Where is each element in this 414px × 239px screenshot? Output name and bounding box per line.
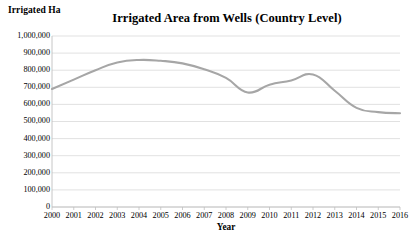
x-tick-label: 2002 [87,212,103,220]
x-tick-label: 2015 [370,212,386,220]
y-tick-label: 600,000 [2,100,50,108]
x-tick-label: 2011 [283,212,299,220]
x-tick-label: 2016 [392,212,408,220]
x-tick-label: 2006 [174,212,190,220]
x-tick-label: 2014 [348,212,364,220]
x-tick-label: 2008 [218,212,234,220]
x-tick-label: 2005 [153,212,169,220]
x-tick-label: 2004 [131,212,147,220]
plot-area [0,0,414,239]
y-tick-label: 0 [2,203,50,211]
y-tick-label: 800,000 [2,66,50,74]
x-axis-title: Year [52,222,400,232]
y-tick-label: 200,000 [2,169,50,177]
x-tick-label: 2000 [44,212,60,220]
y-tick-label: 900,000 [2,49,50,57]
x-tick-label: 2001 [66,212,82,220]
x-tick-label: 2007 [196,212,212,220]
x-tick-label: 2012 [305,212,321,220]
y-tick-label: 1,000,000 [2,32,50,40]
axis-lines [52,36,400,210]
y-tick-label: 500,000 [2,117,50,125]
x-tick-label: 2010 [261,212,277,220]
y-tick-label: 700,000 [2,83,50,91]
y-tick-label: 400,000 [2,135,50,143]
gridlines [52,36,400,207]
y-tick-label: 300,000 [2,152,50,160]
x-tick-label: 2013 [327,212,343,220]
x-tick-label: 2003 [109,212,125,220]
chart-container: Irrigated Ha Irrigated Area from Wells (… [0,0,414,239]
y-axis-tick-labels: 1,000,000900,000800,000700,000600,000500… [0,0,50,239]
data-series-line [52,60,400,113]
x-tick-label: 2009 [240,212,256,220]
y-tick-label: 100,000 [2,186,50,194]
